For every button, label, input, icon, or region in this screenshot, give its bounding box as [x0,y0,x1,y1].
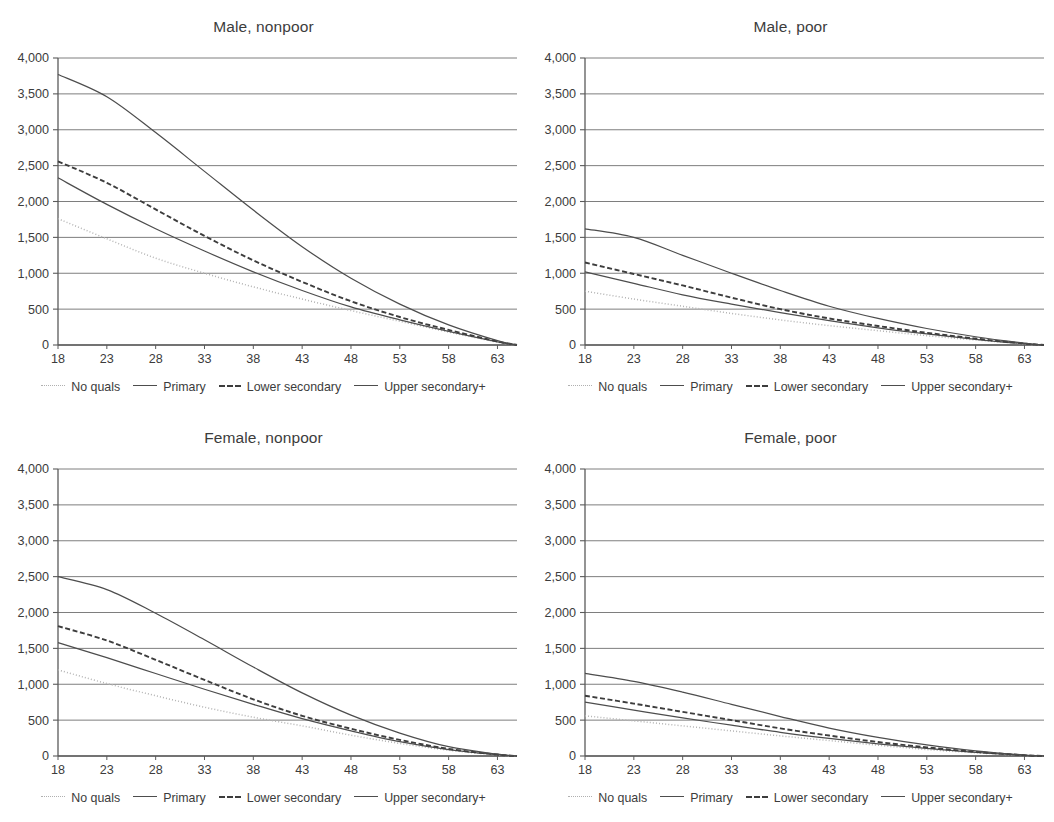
x-tick-label: 48 [871,352,885,366]
chart-panel: Female, poor05001,0001,5002,0002,5003,00… [527,411,1054,822]
x-tick-label: 28 [149,352,163,366]
legend-item[interactable]: Upper secondary+ [881,381,1013,393]
line-dashed-icon [746,385,768,389]
legend-label: Lower secondary [247,792,341,804]
y-tick-label: 3,000 [17,123,49,137]
y-tick-label: 2,000 [17,195,49,209]
x-tick-label: 58 [442,763,456,777]
y-tick-label: 2,000 [544,606,576,620]
x-tick-label: 18 [578,763,592,777]
x-tick-label: 23 [100,352,114,366]
x-tick-label: 23 [627,763,641,777]
x-tick-label: 48 [344,763,358,777]
legend-label: Upper secondary+ [384,381,486,393]
x-tick-label: 23 [627,352,641,366]
y-tick-label: 500 [555,714,576,728]
y-gridlines: 05001,0001,5002,0002,5003,0003,5004,000 [544,51,1044,352]
x-tick-label: 43 [295,763,309,777]
x-tick-label: 18 [578,352,592,366]
plot-area: 05001,0001,5002,0002,5003,0003,5004,0001… [0,0,527,411]
legend-item[interactable]: Primary [133,381,206,393]
x-tick-label: 63 [1017,763,1031,777]
y-tick-label: 2,500 [17,159,49,173]
line-dotted-icon [568,385,592,388]
x-tick-label: 58 [442,352,456,366]
series-line [58,670,517,756]
y-tick-label: 3,000 [544,534,576,548]
x-axis-ticks: 18232833384348535863 [578,345,1031,366]
line-solid-icon [660,796,684,799]
chart-grid: Male, nonpoor05001,0001,5002,0002,5003,0… [0,0,1054,822]
line-solid-icon [354,385,378,388]
chart-panel: Male, poor05001,0001,5002,0002,5003,0003… [527,0,1054,411]
legend-item[interactable]: Lower secondary [219,381,341,393]
line-dotted-icon [41,796,65,799]
y-tick-label: 1,500 [17,642,49,656]
y-tick-label: 4,000 [17,462,49,476]
y-tick-label: 3,000 [17,534,49,548]
chart-panel: Female, nonpoor05001,0001,5002,0002,5003… [0,411,527,822]
y-tick-label: 4,000 [17,51,49,65]
series-line [585,716,1044,756]
legend-label: Lower secondary [774,792,868,804]
legend-label: No quals [71,381,120,393]
x-tick-label: 43 [295,352,309,366]
y-tick-label: 3,500 [544,498,576,512]
legend-label: Upper secondary+ [384,792,486,804]
y-tick-label: 500 [555,303,576,317]
x-tick-label: 48 [871,763,885,777]
x-tick-label: 53 [393,352,407,366]
line-solid-icon [133,385,157,388]
legend-item[interactable]: Primary [660,381,733,393]
series-line [585,696,1044,756]
legend-item[interactable]: Upper secondary+ [354,381,486,393]
legend-label: Lower secondary [774,381,868,393]
series-line [585,229,1044,345]
y-tick-label: 1,500 [544,642,576,656]
series-line [585,262,1044,345]
legend-label: No quals [598,792,647,804]
legend-item[interactable]: No quals [41,381,120,393]
line-solid-icon [133,796,157,799]
x-axis-ticks: 18232833384348535863 [578,756,1031,777]
legend-item[interactable]: No quals [568,381,647,393]
line-solid-icon [354,796,378,799]
x-tick-label: 63 [490,352,504,366]
legend-label: Primary [163,792,206,804]
line-solid-icon [881,385,905,388]
legend-label: Upper secondary+ [911,381,1013,393]
legend-label: Primary [690,381,733,393]
legend-item[interactable]: Upper secondary+ [354,792,486,804]
x-tick-label: 48 [344,352,358,366]
x-tick-label: 53 [920,763,934,777]
y-tick-label: 0 [42,749,49,763]
legend-label: No quals [598,381,647,393]
y-tick-label: 2,500 [17,570,49,584]
x-tick-label: 53 [920,352,934,366]
legend-item[interactable]: Primary [133,792,206,804]
legend-item[interactable]: Lower secondary [219,792,341,804]
y-tick-label: 3,500 [544,87,576,101]
plot-area: 05001,0001,5002,0002,5003,0003,5004,0001… [527,0,1054,411]
y-tick-label: 0 [569,338,576,352]
y-tick-label: 2,000 [17,606,49,620]
legend-item[interactable]: Upper secondary+ [881,792,1013,804]
y-tick-label: 2,500 [544,570,576,584]
legend-item[interactable]: Lower secondary [746,792,868,804]
legend-label: No quals [71,792,120,804]
legend-item[interactable]: No quals [568,792,647,804]
y-gridlines: 05001,0001,5002,0002,5003,0003,5004,000 [17,462,517,763]
line-solid-icon [660,385,684,388]
y-gridlines: 05001,0001,5002,0002,5003,0003,5004,000 [544,462,1044,763]
chart-legend: No qualsPrimaryLower secondaryUpper seco… [527,792,1054,804]
legend-item[interactable]: Lower secondary [746,381,868,393]
legend-item[interactable]: No quals [41,792,120,804]
y-tick-label: 0 [569,749,576,763]
legend-item[interactable]: Primary [660,792,733,804]
x-tick-label: 28 [676,352,690,366]
x-tick-label: 43 [822,763,836,777]
plot-area: 05001,0001,5002,0002,5003,0003,5004,0001… [0,411,527,822]
series-line [58,75,517,346]
line-solid-icon [881,796,905,799]
x-tick-label: 58 [969,352,983,366]
